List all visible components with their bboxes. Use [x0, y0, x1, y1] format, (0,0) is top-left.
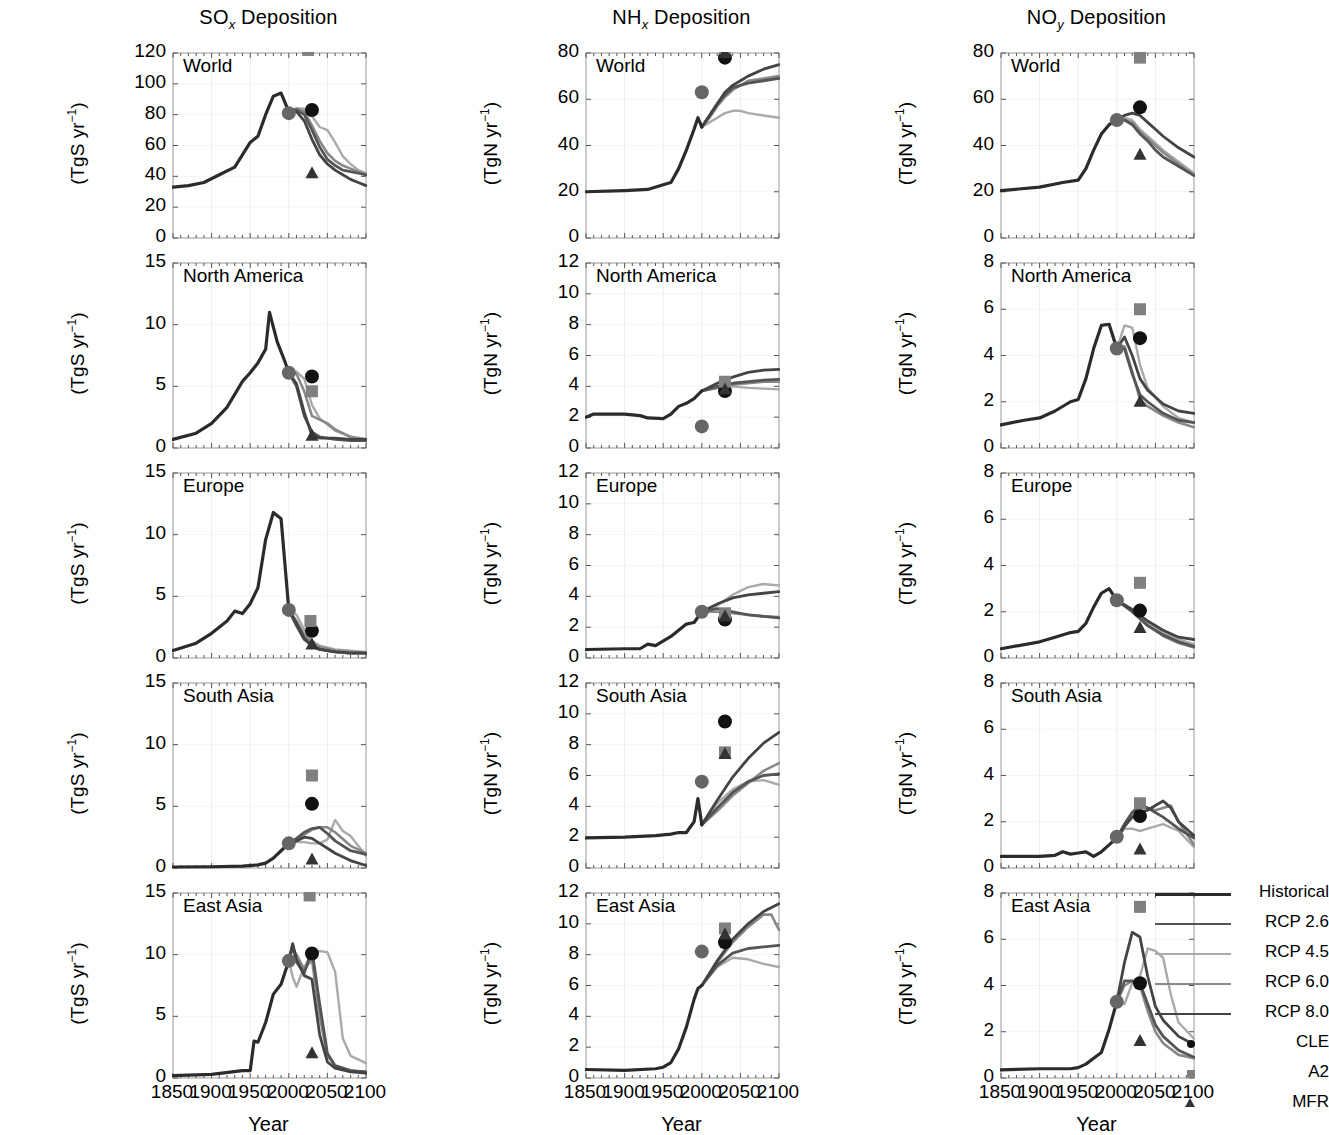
- y-tick-label: 40: [948, 133, 994, 155]
- legend-label: CLE: [1241, 1032, 1329, 1052]
- chart-panel-nhx-world: [585, 52, 780, 239]
- y-axis-label: (TgN yr−1): [893, 903, 916, 1063]
- y-tick-label: 6: [533, 343, 579, 365]
- y-tick-label: 8: [533, 522, 579, 544]
- region-label: North America: [596, 265, 716, 287]
- y-axis-label-close: ): [895, 521, 916, 527]
- x-tick-label: 2100: [748, 1081, 808, 1103]
- legend-label: MFR: [1241, 1092, 1329, 1112]
- y-tick-label: 8: [533, 732, 579, 754]
- y-axis-label-close: ): [895, 731, 916, 737]
- y-axis-label-unit: (TgN yr: [480, 122, 501, 185]
- y-axis-label-close: ): [480, 731, 501, 737]
- y-tick-label: 8: [533, 942, 579, 964]
- column-title-tail: Deposition: [1064, 6, 1166, 28]
- y-tick-label: 80: [120, 102, 166, 124]
- y-tick-label: 2: [533, 404, 579, 426]
- legend-line-swatch: [1155, 953, 1231, 955]
- column-title-tail: Deposition: [648, 6, 750, 28]
- y-tick-label: 8: [948, 670, 994, 692]
- y-axis-label: (TgS yr−1): [65, 273, 88, 433]
- region-label: South Asia: [183, 685, 274, 707]
- column-title-nhx: NHx Deposition: [475, 6, 888, 32]
- y-tick-label: 5: [120, 1003, 166, 1025]
- y-axis-label-unit: (TgN yr: [480, 962, 501, 1025]
- y-tick-label: 12: [533, 880, 579, 902]
- y-tick-label: 6: [948, 296, 994, 318]
- y-axis-label: (TgN yr−1): [893, 273, 916, 433]
- y-axis-label-close: ): [895, 311, 916, 317]
- y-axis-label-close: ): [480, 521, 501, 527]
- y-tick-label: 20: [120, 194, 166, 216]
- y-axis-label-close: ): [67, 942, 88, 948]
- y-axis-label-exponent: −1: [65, 528, 79, 542]
- legend-label: Historical: [1241, 882, 1329, 902]
- y-axis-label-close: ): [480, 311, 501, 317]
- y-tick-label: 10: [120, 522, 166, 544]
- y-axis-label: (TgN yr−1): [893, 63, 916, 223]
- region-label: World: [183, 55, 232, 77]
- y-axis-label: (TgN yr−1): [893, 483, 916, 643]
- y-tick-label: 2: [948, 809, 994, 831]
- y-tick-label: 20: [948, 179, 994, 201]
- chart-panel-noy-world: [1000, 52, 1195, 239]
- region-label: World: [596, 55, 645, 77]
- chart-panel-sox-south-asia: [172, 682, 367, 869]
- y-axis-label-exponent: −1: [478, 738, 492, 752]
- y-tick-label: 2: [533, 1034, 579, 1056]
- y-tick-label: 5: [120, 373, 166, 395]
- y-tick-label: 4: [533, 1003, 579, 1025]
- legend-label: RCP 2.6: [1241, 912, 1329, 932]
- legend-label: RCP 8.0: [1241, 1002, 1329, 1022]
- y-tick-label: 8: [948, 880, 994, 902]
- legend-label: RCP 4.5: [1241, 942, 1329, 962]
- y-axis-label: (TgN yr−1): [478, 903, 501, 1063]
- y-tick-label: 20: [533, 179, 579, 201]
- y-tick-label: 6: [533, 763, 579, 785]
- y-axis-label-unit: (TgN yr: [480, 752, 501, 815]
- y-tick-label: 40: [120, 163, 166, 185]
- y-tick-label: 4: [948, 343, 994, 365]
- column-title-sox: SOx Deposition: [62, 6, 475, 32]
- y-axis-label-close: ): [895, 101, 916, 107]
- x-axis-label: Year: [172, 1113, 365, 1135]
- y-tick-label: 2: [948, 1019, 994, 1041]
- y-tick-label: 12: [533, 670, 579, 692]
- y-axis-label-exponent: −1: [478, 108, 492, 122]
- y-tick-label: 0: [948, 855, 994, 877]
- y-axis-label-exponent: −1: [893, 948, 907, 962]
- legend-line-swatch: [1155, 983, 1231, 985]
- y-tick-label: 10: [533, 491, 579, 513]
- region-label: Europe: [183, 475, 244, 497]
- y-axis-label-close: ): [67, 522, 88, 528]
- y-tick-label: 4: [948, 553, 994, 575]
- chart-panel-nhx-south-asia: [585, 682, 780, 869]
- region-label: South Asia: [1011, 685, 1102, 707]
- y-tick-label: 4: [533, 373, 579, 395]
- y-axis-label-exponent: −1: [65, 318, 79, 332]
- y-tick-label: 80: [948, 40, 994, 62]
- y-tick-label: 5: [120, 583, 166, 605]
- region-label: East Asia: [183, 895, 262, 917]
- y-tick-label: 10: [533, 281, 579, 303]
- region-label: East Asia: [596, 895, 675, 917]
- y-tick-label: 4: [533, 793, 579, 815]
- y-tick-label: 60: [533, 86, 579, 108]
- y-axis-label-exponent: −1: [893, 108, 907, 122]
- y-tick-label: 10: [533, 911, 579, 933]
- y-tick-label: 12: [533, 460, 579, 482]
- y-axis-label-exponent: −1: [893, 318, 907, 332]
- y-axis-label: (TgS yr−1): [65, 483, 88, 643]
- y-tick-label: 10: [120, 312, 166, 334]
- y-axis-label-unit: (TgS yr: [67, 752, 88, 814]
- y-tick-label: 60: [120, 133, 166, 155]
- y-tick-label: 4: [533, 583, 579, 605]
- y-axis-label: (TgN yr−1): [893, 693, 916, 853]
- y-axis-label-unit: (TgN yr: [895, 332, 916, 395]
- y-tick-label: 0: [948, 435, 994, 457]
- y-tick-label: 0: [120, 225, 166, 247]
- legend-line-swatch: [1155, 1013, 1231, 1015]
- y-axis-label: (TgN yr−1): [478, 63, 501, 223]
- column-title-species: NO: [1027, 6, 1057, 28]
